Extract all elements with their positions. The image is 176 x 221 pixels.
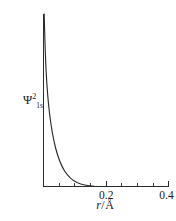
y-axis-label-subscript: 1s — [36, 101, 43, 110]
y-axis-label: Ψ21s — [9, 94, 43, 107]
y-axis-label-superscript: 2 — [32, 92, 36, 101]
x-axis-label: r/Å — [76, 199, 134, 211]
axes-group — [43, 14, 169, 187]
density-curve — [44, 14, 167, 187]
plot-figure: 0.2 0.4 Ψ21s r/Å — [0, 0, 176, 221]
y-axis-label-symbol: Ψ — [23, 93, 32, 107]
chart-canvas: 0.2 0.4 — [0, 0, 176, 221]
x-axis-label-unit: Å — [105, 198, 114, 212]
x-tick-label-1: 0.4 — [159, 189, 174, 201]
